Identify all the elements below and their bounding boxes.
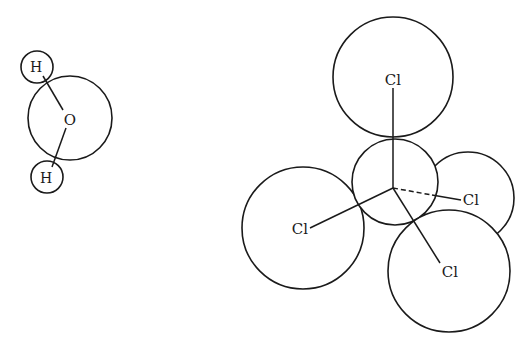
carbon-atom	[352, 139, 438, 225]
oxygen-label: O	[64, 111, 76, 129]
chlorine-label-right: Cl	[463, 191, 479, 209]
hydrogen-label-top: H	[30, 59, 42, 75]
chlorine-label-left: Cl	[292, 220, 308, 238]
hydrogen-label-bottom: H	[40, 170, 52, 186]
molecule-diagram: O H H Cl Cl Cl Cl	[0, 0, 530, 345]
ccl4-molecule: Cl Cl Cl Cl	[242, 17, 514, 332]
water-molecule: O H H	[21, 51, 112, 193]
chlorine-label-top: Cl	[385, 71, 401, 89]
chlorine-label-bottom: Cl	[442, 263, 458, 281]
